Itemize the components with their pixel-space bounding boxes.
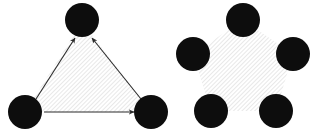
pentagon-node-bottom-right[interactable] [259,94,293,128]
pentagon-node-bottom-left[interactable] [194,94,228,128]
triangle-figure[interactable] [8,3,168,129]
triangle-node-bottom-left[interactable] [8,95,42,129]
pentagon-figure[interactable] [176,3,310,128]
pentagon-node-right[interactable] [276,37,310,71]
pentagon-node-top[interactable] [226,3,260,37]
triangle-node-bottom-right[interactable] [134,95,168,129]
triangle-node-apex[interactable] [65,3,99,37]
figure-canvas [0,0,321,136]
pentagon-node-left[interactable] [176,37,210,71]
geometry-diagram-svg [0,0,321,136]
